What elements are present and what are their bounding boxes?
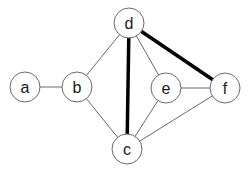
node-e: e bbox=[151, 73, 181, 103]
node-label: b bbox=[73, 79, 82, 96]
edge-d-c bbox=[127, 23, 129, 149]
node-label: e bbox=[162, 80, 171, 97]
node-label: f bbox=[223, 80, 228, 97]
node-a: a bbox=[10, 72, 40, 102]
node-label: d bbox=[125, 15, 134, 32]
edges-layer bbox=[25, 23, 225, 149]
node-f: f bbox=[210, 73, 240, 103]
node-c: c bbox=[112, 134, 142, 164]
graph-diagram: abdcef bbox=[0, 0, 249, 170]
node-label: a bbox=[21, 79, 30, 96]
node-b: b bbox=[62, 72, 92, 102]
nodes-layer: abdcef bbox=[10, 8, 240, 164]
node-d: d bbox=[114, 8, 144, 38]
node-label: c bbox=[123, 141, 131, 158]
